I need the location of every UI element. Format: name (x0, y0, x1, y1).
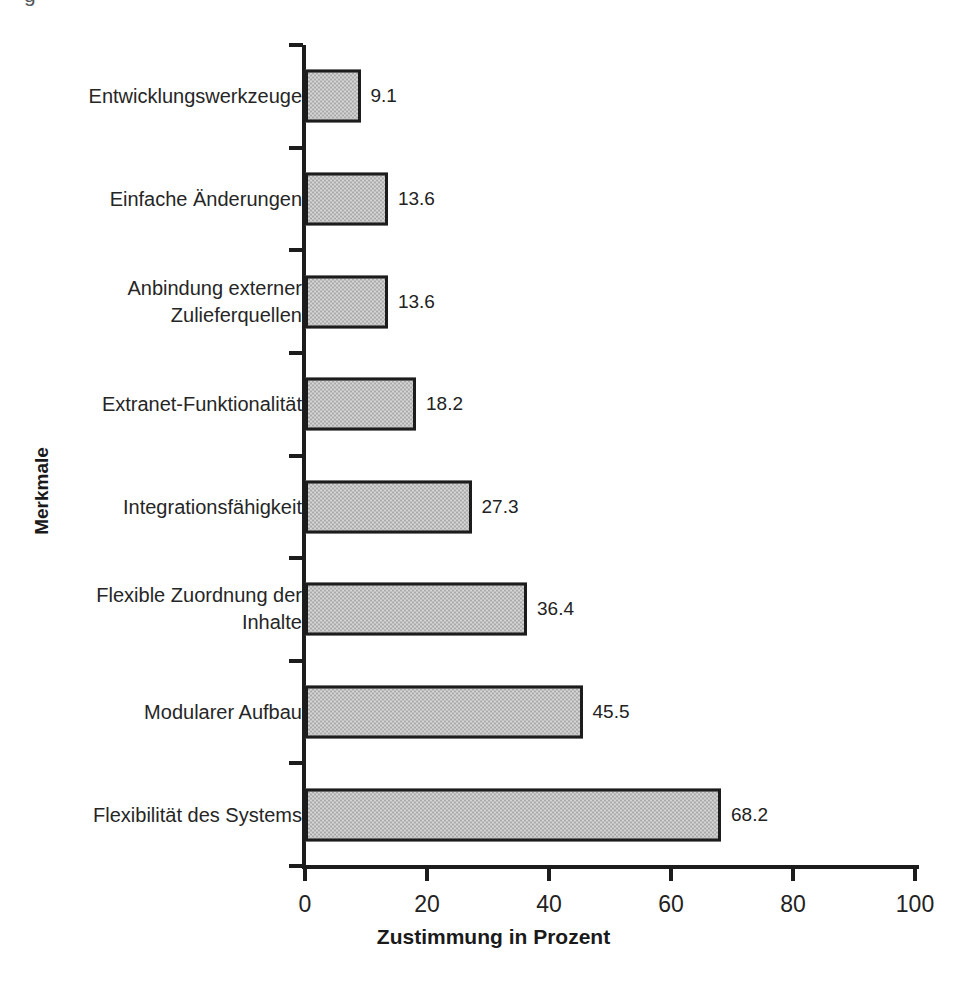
y-axis-tick (289, 454, 303, 458)
y-axis-title: Merkmale (12, 0, 72, 982)
bar (305, 686, 583, 739)
bar-row: Einfache Änderungen13.6 (305, 148, 915, 251)
bar (305, 378, 416, 431)
category-label: Flexible Zuordnung der Inhalte (2, 582, 302, 636)
category-label: Anbindung externer Zulieferquellen (2, 275, 302, 329)
bar-row: Modularer Aufbau45.5 (305, 661, 915, 764)
category-label: Modularer Aufbau (2, 699, 302, 726)
bar-value-label: 45.5 (593, 701, 630, 723)
x-axis-tick-label: 80 (780, 891, 806, 918)
x-axis-tick (669, 868, 673, 881)
bar-value-label: 36.4 (537, 598, 574, 620)
chart-figure: g Merkmale Entwicklungswerkzeuge9.1Einfa… (0, 0, 969, 982)
y-axis-tick (289, 248, 303, 252)
category-label: Extranet-Funktionalität (2, 391, 302, 418)
x-axis-tick-label: 0 (299, 891, 312, 918)
bar (305, 480, 472, 533)
bar (305, 275, 388, 328)
category-label: Integrationsfähigkeit (2, 493, 302, 520)
x-axis-tick-label: 40 (536, 891, 562, 918)
y-axis-tick (289, 556, 303, 560)
y-axis-tick (289, 43, 303, 47)
category-label: Entwicklungswerkzeuge (2, 83, 302, 110)
category-label: Einfache Änderungen (2, 185, 302, 212)
bar-row: Extranet-Funktionalität18.2 (305, 353, 915, 456)
x-axis-tick-label: 60 (658, 891, 684, 918)
y-axis-tick (289, 351, 303, 355)
y-axis-tick (289, 864, 303, 868)
bar-value-label: 18.2 (426, 393, 463, 415)
plot-area: Entwicklungswerkzeuge9.1Einfache Änderun… (305, 45, 915, 866)
x-axis-tick (547, 868, 551, 881)
y-axis-tick (289, 659, 303, 663)
bar-row: Anbindung externer Zulieferquellen13.6 (305, 250, 915, 353)
bar-row: Flexibilität des Systems68.2 (305, 763, 915, 866)
x-axis-title: Zustimmung in Prozent (0, 925, 969, 949)
bar-value-label: 68.2 (731, 804, 768, 826)
y-axis-tick (289, 761, 303, 765)
bar-row: Entwicklungswerkzeuge9.1 (305, 45, 915, 148)
x-axis-tick-label: 20 (414, 891, 440, 918)
x-axis-title-text: Zustimmung in Prozent (377, 925, 610, 949)
x-axis-tick (791, 868, 795, 881)
bar-value-label: 13.6 (398, 188, 435, 210)
bar-row: Flexible Zuordnung der Inhalte36.4 (305, 558, 915, 661)
x-axis-tick (425, 868, 429, 881)
bar-value-label: 9.1 (371, 85, 397, 107)
bar (305, 172, 388, 225)
bar (305, 70, 361, 123)
bar-value-label: 13.6 (398, 291, 435, 313)
bar (305, 583, 527, 636)
x-axis-tick (913, 868, 917, 881)
y-axis-tick (289, 146, 303, 150)
category-label: Flexibilität des Systems (2, 801, 302, 828)
y-axis-title-text: Merkmale (31, 447, 53, 535)
x-axis-tick-label: 100 (896, 891, 934, 918)
bar (305, 788, 721, 841)
x-axis-tick (303, 868, 307, 881)
bar-row: Integrationsfähigkeit27.3 (305, 456, 915, 559)
bar-value-label: 27.3 (482, 496, 519, 518)
